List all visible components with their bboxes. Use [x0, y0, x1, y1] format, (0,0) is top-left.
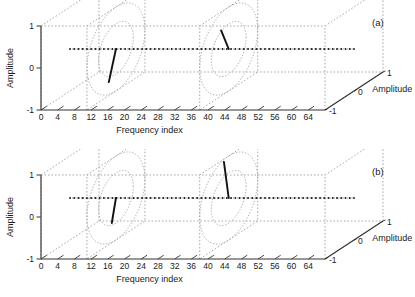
x-tick	[74, 255, 80, 259]
x-tick-label: 32	[170, 112, 180, 122]
x-tick-label: 12	[86, 261, 96, 271]
plot-canvas: 10-1Amplitude048121620242832364044485256…	[0, 0, 415, 148]
x-tick	[225, 106, 231, 110]
x-tick-label: 8	[72, 112, 77, 122]
box-edge	[41, 149, 99, 175]
x-tick	[41, 255, 47, 259]
x-tick	[91, 106, 97, 110]
x-tick	[191, 255, 197, 259]
z-axis-label: Amplitude	[372, 84, 412, 94]
x-tick-label: 52	[253, 261, 263, 271]
plot-canvas: 10-1Amplitude048121620242832364044485256…	[0, 149, 415, 297]
y-tick-label: 1	[29, 170, 34, 180]
x-tick	[308, 106, 314, 110]
x-tick-label: 20	[120, 112, 130, 122]
data-layer	[69, 3, 355, 95]
y-tick-label: -1	[26, 254, 34, 264]
z-tick-label: 0	[358, 236, 363, 246]
cut-plane	[87, 149, 145, 259]
box-edge	[41, 72, 99, 110]
x-tick-label: 48	[237, 112, 247, 122]
subplot-a: 10-1Amplitude048121620242832364044485256…	[0, 0, 415, 148]
phasor-vector	[109, 49, 116, 82]
x-tick	[308, 255, 314, 259]
x-tick-label: 16	[103, 112, 113, 122]
x-tick	[208, 255, 214, 259]
x-tick	[208, 106, 214, 110]
x-tick	[241, 106, 247, 110]
x-tick	[125, 106, 131, 110]
x-tick-label: 44	[220, 261, 230, 271]
cut-plane	[200, 149, 258, 259]
x-tick	[292, 106, 298, 110]
phasor-vector	[224, 162, 229, 198]
x-tick	[141, 106, 147, 110]
x-tick	[175, 255, 181, 259]
x-tick	[58, 106, 64, 110]
x-tick	[158, 106, 164, 110]
x-tick-label: 24	[137, 261, 147, 271]
x-tick	[41, 106, 47, 110]
x-tick-label: 28	[153, 261, 163, 271]
x-tick	[225, 255, 231, 259]
x-tick-label: 20	[120, 261, 130, 271]
x-tick-label: 52	[253, 112, 263, 122]
x-tick	[74, 106, 80, 110]
y-tick-label: -1	[26, 105, 34, 115]
x-tick-label: 56	[270, 261, 280, 271]
phasor-vector	[221, 30, 229, 49]
subplot-b: 10-1Amplitude048121620242832364044485256…	[0, 149, 415, 297]
x-tick-label: 64	[304, 261, 314, 271]
panel-label: (b)	[372, 166, 384, 177]
x-tick-label: 60	[287, 112, 297, 122]
z-tick-label: 0	[358, 87, 363, 97]
x-tick	[258, 106, 264, 110]
z-tick-label: 1	[387, 68, 392, 78]
x-tick-label: 36	[187, 112, 197, 122]
x-tick	[108, 106, 114, 110]
x-tick-label: 8	[72, 261, 77, 271]
x-tick-label: 4	[55, 261, 60, 271]
x-tick	[191, 106, 197, 110]
x-tick-label: 56	[270, 112, 280, 122]
x-tick-label: 0	[39, 112, 44, 122]
z-tick-label: -1	[329, 106, 337, 116]
phasor-vector	[112, 198, 116, 223]
data-layer	[69, 152, 355, 244]
x-tick	[91, 255, 97, 259]
x-axis-label: Frequency index	[116, 274, 183, 284]
x-tick-label: 28	[153, 112, 163, 122]
x-tick	[275, 106, 281, 110]
y-tick-label: 0	[29, 63, 34, 73]
x-tick-label: 44	[220, 112, 230, 122]
x-tick	[258, 255, 264, 259]
x-tick	[108, 255, 114, 259]
x-tick	[141, 255, 147, 259]
x-tick	[158, 255, 164, 259]
z-tick-label: -1	[329, 255, 337, 265]
x-tick-label: 32	[170, 261, 180, 271]
panel-label: (a)	[372, 17, 384, 28]
x-tick-label: 40	[203, 261, 213, 271]
y-tick-label: 0	[29, 212, 34, 222]
x-tick-label: 24	[137, 112, 147, 122]
x-tick-label: 40	[203, 112, 213, 122]
z-axis-label: Amplitude	[372, 233, 412, 243]
cut-plane	[200, 0, 258, 110]
x-tick	[241, 255, 247, 259]
figure-root: 10-1Amplitude048121620242832364044485256…	[0, 0, 415, 297]
y-tick-label: 1	[29, 21, 34, 31]
x-tick-label: 48	[237, 261, 247, 271]
x-axis-label: Frequency index	[116, 125, 183, 135]
x-tick-label: 36	[187, 261, 197, 271]
x-tick-label: 4	[55, 112, 60, 122]
box-edge	[41, 0, 99, 26]
y-axis-label: Amplitude	[5, 48, 15, 88]
axes-frame: 10-1Amplitude048121620242832364044485256…	[5, 0, 412, 135]
x-tick	[125, 255, 131, 259]
x-tick-label: 60	[287, 261, 297, 271]
cut-plane	[87, 0, 145, 110]
x-tick	[175, 106, 181, 110]
x-tick-label: 0	[39, 261, 44, 271]
x-tick-label: 64	[304, 112, 314, 122]
